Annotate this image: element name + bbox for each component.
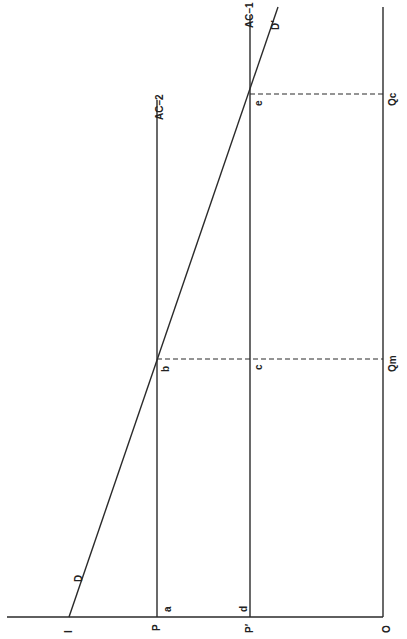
label-point-d: d bbox=[238, 606, 249, 612]
label-demand-prime: D′ bbox=[270, 20, 281, 30]
label-origin: O bbox=[381, 625, 392, 633]
label-intercept: I bbox=[63, 630, 74, 633]
label-point-c: c bbox=[253, 364, 264, 370]
economics-diagram: I P P′ O a d b c e Qm Qc D D′ AC–2 AC–1 bbox=[0, 0, 407, 639]
label-point-a: a bbox=[162, 606, 173, 612]
label-ac2: AC–2 bbox=[154, 94, 165, 120]
label-ac1: AC–1 bbox=[244, 2, 255, 28]
label-qty-m: Qm bbox=[387, 355, 398, 372]
label-point-b: b bbox=[160, 366, 171, 372]
label-price-p: P bbox=[151, 624, 162, 631]
label-demand: D bbox=[73, 575, 84, 582]
label-price-p-prime: P′ bbox=[244, 623, 255, 633]
demand-line bbox=[69, 7, 278, 617]
label-point-e: e bbox=[253, 100, 264, 106]
label-qty-c: Qc bbox=[387, 92, 398, 106]
